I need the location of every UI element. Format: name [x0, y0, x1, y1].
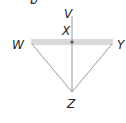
point-x-dot [70, 40, 73, 43]
label-w: W [12, 38, 25, 52]
segment-yz [72, 44, 112, 92]
label-y: Y [117, 38, 126, 52]
label-v: V [64, 7, 73, 21]
label-x: X [61, 24, 71, 38]
cut-off-label: b [30, 0, 38, 7]
geometry-diagram: b V X W Y Z [0, 0, 126, 123]
label-z: Z [66, 97, 76, 111]
segment-wz [32, 44, 72, 92]
